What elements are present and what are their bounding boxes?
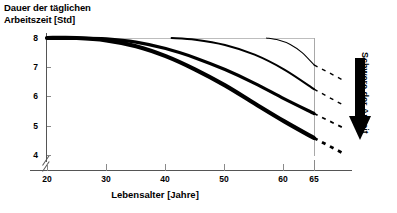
chart-title: Dauer der täglichen Arbeitszeit [Std]	[4, 2, 204, 25]
y-tick-label-6: 6	[0, 91, 38, 101]
chart-title-line1: Dauer der täglichen	[4, 2, 204, 14]
x-axis-line	[30, 170, 352, 171]
x-tick-label-20: 20	[27, 174, 67, 184]
x-tick-label-65: 65	[294, 174, 334, 184]
chart-container: Dauer der täglichen Arbeitszeit [Std] 8 …	[0, 0, 397, 213]
severity-label: Schwere der Arbeit	[360, 52, 370, 152]
y-tick-6	[47, 96, 51, 97]
x-tick-label-50: 50	[204, 174, 244, 184]
y-tick-label-8: 8	[0, 33, 38, 43]
y-tick-5	[47, 126, 51, 127]
x-tick-65	[314, 160, 315, 171]
plot-frame-right	[314, 38, 315, 156]
y-tick-label-4: 4	[0, 150, 38, 160]
y-tick-8	[47, 38, 51, 39]
y-tick-4	[47, 155, 51, 156]
x-tick-60	[283, 164, 284, 171]
curve-extension-2	[314, 113, 344, 128]
y-tick-label-7: 7	[0, 62, 38, 72]
curve-2	[47, 38, 314, 114]
x-axis-title: Lebensalter [Jahre]	[0, 189, 310, 200]
curve-3	[172, 38, 314, 89]
x-tick-label-40: 40	[145, 174, 185, 184]
curve-extension-1	[314, 138, 344, 154]
curve-extension-3	[314, 89, 344, 105]
x-tick-50	[224, 164, 225, 171]
x-tick-40	[165, 164, 166, 171]
x-tick-20	[47, 164, 48, 171]
chart-title-line2: Arbeitszeit [Std]	[4, 14, 204, 26]
curve-4	[267, 38, 314, 65]
y-axis-line	[46, 33, 47, 162]
x-tick-30	[106, 164, 107, 171]
y-tick-label-5: 5	[0, 121, 38, 131]
curve-1	[47, 38, 314, 138]
x-tick-label-30: 30	[86, 174, 126, 184]
plot-frame-top	[47, 38, 314, 39]
curve-extension-4	[314, 65, 344, 81]
y-tick-7	[47, 67, 51, 68]
